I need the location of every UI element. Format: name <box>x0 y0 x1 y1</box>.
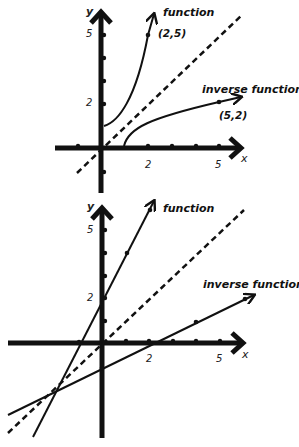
top-function-point-label: (2,5) <box>158 27 186 39</box>
bottom-y-tick-5: 5 <box>87 224 93 235</box>
bottom-function-label: function <box>163 202 215 215</box>
top-x-tick-5: 5 <box>215 159 221 170</box>
top-inverse-point-label: (5,2) <box>219 109 247 121</box>
bottom-inverse-point <box>100 366 105 371</box>
top-graph: 2 5 5 2 x y function (2,5) inverse funct… <box>55 5 299 193</box>
top-function-label: function <box>163 6 215 19</box>
top-y-tick-5: 5 <box>86 28 92 39</box>
bottom-inverse-point <box>243 297 248 302</box>
top-function-point <box>146 33 151 38</box>
top-function-curve <box>104 14 154 126</box>
top-y-tick-2: 2 <box>86 97 92 108</box>
bottom-ticks <box>77 228 222 344</box>
top-inverse-point <box>217 100 222 105</box>
bottom-y-tick-2: 2 <box>87 292 93 303</box>
bottom-function-point <box>77 341 82 346</box>
bottom-inverse-label: inverse function <box>203 278 299 291</box>
top-inverse-curve <box>124 97 241 146</box>
top-ticks <box>76 33 221 174</box>
top-y-axis-label: y <box>86 5 94 18</box>
bottom-function-point <box>148 208 153 213</box>
top-inverse-label: inverse function <box>202 83 299 96</box>
bottom-x-axis-label: x <box>241 348 249 361</box>
inverse-function-diagram: 2 5 5 2 x y function (2,5) inverse funct… <box>0 0 299 447</box>
bottom-x-tick-2: 2 <box>146 353 152 364</box>
top-x-tick-2: 2 <box>145 159 151 170</box>
bottom-y-axis-label: y <box>87 200 95 213</box>
bottom-graph: 2 5 5 2 x y function inverse function <box>8 200 299 438</box>
bottom-identity-line <box>8 210 244 433</box>
top-x-axis-label: x <box>240 152 248 165</box>
bottom-function-point <box>125 251 130 256</box>
bottom-inverse-point <box>148 341 153 346</box>
bottom-function-line <box>33 201 154 437</box>
bottom-x-tick-5: 5 <box>216 353 222 364</box>
bottom-inverse-point <box>194 320 199 325</box>
